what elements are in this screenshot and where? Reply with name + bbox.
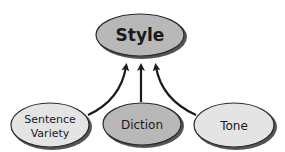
diction-node-label: Diction xyxy=(121,118,163,132)
sentence-variety-label-line1: Sentence xyxy=(24,113,76,126)
style-diagram: Style Sentence Variety Diction Tone xyxy=(0,0,285,152)
tone-node-label: Tone xyxy=(219,119,248,133)
style-node-label: Style xyxy=(116,25,165,45)
sentence-variety-label-line2: Variety xyxy=(31,127,70,140)
